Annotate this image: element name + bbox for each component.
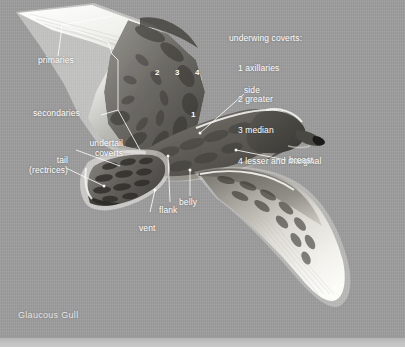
label-belly: belly	[179, 197, 197, 207]
callout-number-4: 4	[195, 68, 200, 77]
label-undertail-coverts-line1: undertail	[0, 138, 123, 148]
callout-number-3: 3	[175, 68, 180, 77]
label-secondaries: secondaries	[33, 108, 80, 118]
far-wing	[194, 167, 350, 307]
bird-anatomy-plate: underwing coverts: 1 axillaries 2 greate…	[0, 0, 405, 347]
label-breast: breast	[289, 155, 313, 165]
callout-number-2: 2	[155, 68, 160, 77]
label-vent: vent	[139, 223, 155, 233]
legend-item-1: 1 axillaries	[229, 63, 321, 73]
label-tail-line1: tail	[0, 155, 68, 165]
legend-heading: underwing coverts:	[229, 33, 321, 43]
legend-item-2: 2 greater	[229, 94, 321, 104]
label-tail-line2: (rectrices)	[0, 165, 68, 175]
label-side: side	[244, 85, 260, 95]
label-primaries: primaries	[38, 55, 74, 65]
label-flank: flank	[159, 205, 177, 215]
legend-item-3: 3 median	[229, 125, 321, 135]
callout-number-1: 1	[191, 110, 196, 119]
plate-caption: Glaucous Gull	[18, 310, 78, 320]
tail	[80, 150, 170, 211]
bottom-border-strip	[0, 338, 405, 347]
